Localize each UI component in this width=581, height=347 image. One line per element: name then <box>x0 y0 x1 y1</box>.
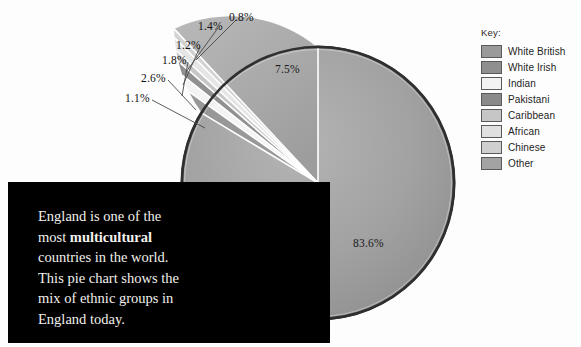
pie-callout-white-irish: 2.6% <box>141 72 166 84</box>
caption-line-1: England is one of the <box>38 208 161 224</box>
legend-label-african: African <box>508 126 540 137</box>
pie-callout-pakistani: 1.4% <box>198 20 223 32</box>
legend-swatch-white-irish <box>481 61 502 74</box>
caption-line-4: This pie chart shows the <box>38 270 179 286</box>
caption-line-2-prefix: most <box>38 229 70 245</box>
pie-callout-caribbean: 1.1% <box>125 92 150 104</box>
legend-item-other[interactable]: Other <box>481 156 577 170</box>
legend-item-white-irish[interactable]: White Irish <box>481 60 577 74</box>
caption-line-6: England today. <box>38 311 125 327</box>
legend: Key: White British White Irish Indian Pa… <box>481 27 577 172</box>
pie-callout-chinese: 0.8% <box>229 11 254 23</box>
chart-canvas: 7.5% 83.6% 0.8% 1.4% 1.2% 1.8% 2.6% 1.1%… <box>0 0 581 347</box>
legend-label-white-irish: White Irish <box>508 62 556 73</box>
pie-label-white-british: 83.6% <box>353 237 384 249</box>
legend-swatch-african <box>481 125 502 138</box>
legend-swatch-chinese <box>481 141 502 154</box>
pie-label-other: 7.5% <box>275 63 300 75</box>
legend-item-indian[interactable]: Indian <box>481 76 577 90</box>
legend-item-pakistani[interactable]: Pakistani <box>481 92 577 106</box>
legend-label-chinese: Chinese <box>508 142 545 153</box>
caption-text: England is one of the most multicultural… <box>38 206 253 329</box>
legend-item-caribbean[interactable]: Caribbean <box>481 108 577 122</box>
legend-label-other: Other <box>508 158 534 169</box>
legend-swatch-other <box>481 157 502 170</box>
legend-item-african[interactable]: African <box>481 124 577 138</box>
legend-item-chinese[interactable]: Chinese <box>481 140 577 154</box>
legend-label-caribbean: Caribbean <box>508 110 555 121</box>
legend-swatch-pakistani <box>481 93 502 106</box>
legend-title: Key: <box>481 27 577 38</box>
pie-callout-indian: 1.8% <box>162 54 187 66</box>
legend-swatch-indian <box>481 77 502 90</box>
caption-line-3: countries in the world. <box>38 249 168 265</box>
pie-callout-african: 1.2% <box>176 39 201 51</box>
caption-box: England is one of the most multicultural… <box>8 182 330 343</box>
legend-swatch-caribbean <box>481 109 502 122</box>
legend-label-white-british: White British <box>508 46 565 57</box>
legend-swatch-white-british <box>481 45 502 58</box>
legend-item-white-british[interactable]: White British <box>481 44 577 58</box>
legend-label-pakistani: Pakistani <box>508 94 549 105</box>
legend-label-indian: Indian <box>508 78 536 89</box>
caption-bold-word: multicultural <box>70 229 152 245</box>
caption-line-5: mix of ethnic groups in <box>38 290 173 306</box>
